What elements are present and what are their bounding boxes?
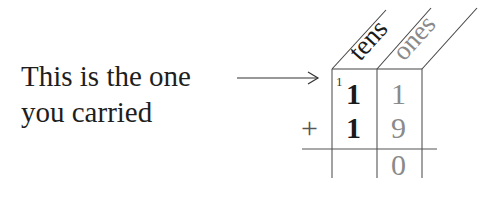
carry-digit: 1 bbox=[336, 74, 343, 89]
row2-ones-digit: 9 bbox=[391, 111, 406, 144]
row1-ones-digit: 1 bbox=[391, 77, 406, 110]
row2-tens-digit: 1 bbox=[346, 111, 361, 144]
row1-tens-digit: 1 bbox=[346, 77, 361, 110]
place-value-grid bbox=[302, 69, 437, 178]
plus-operator: + bbox=[301, 111, 318, 144]
place-value-addition-diagram: tens ones 1 1 1 + 1 9 0 bbox=[0, 0, 490, 200]
arrow-icon bbox=[237, 72, 318, 84]
ones-column-label: ones bbox=[386, 9, 441, 66]
tens-column-label: tens bbox=[342, 14, 393, 66]
result-ones-digit: 0 bbox=[391, 148, 406, 181]
